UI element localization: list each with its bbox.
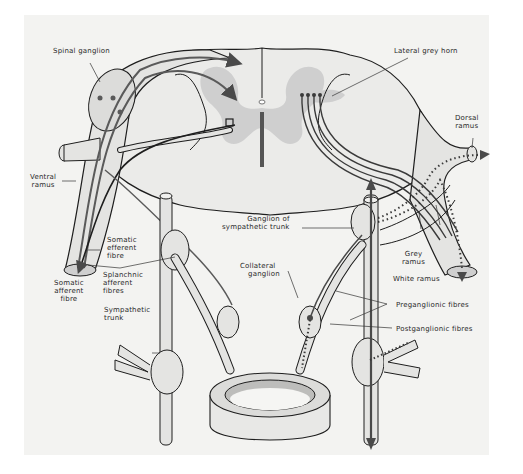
label-dorsal-ramus: Dorsal ramus (455, 114, 479, 130)
label-collateral-line2: ganglion (240, 270, 280, 278)
label-somatic-afferent-line2: afferent (54, 287, 84, 295)
label-postganglionic-fibres: Postganglionic fibres (396, 325, 473, 333)
label-ganglion-of-sympathetic-trunk: Ganglion of sympathetic trunk (222, 215, 290, 231)
label-dorsal-ramus-line1: Dorsal (455, 114, 479, 122)
label-somatic-afferent-line1: Somatic (54, 279, 84, 287)
label-lateral-grey-horn: Lateral grey horn (394, 47, 458, 55)
central-canal (259, 100, 265, 104)
label-somatic-efferent-line2: efferent (107, 244, 137, 252)
label-somatic-efferent-fibre: Somatic efferent fibre (107, 236, 137, 260)
label-grey-ramus-line1: Grey (402, 250, 425, 258)
label-somatic-efferent-line1: Somatic (107, 236, 137, 244)
label-splanchnic-line3: fibres (103, 287, 143, 295)
aorta (210, 373, 330, 440)
nervous-system-diagram (0, 0, 523, 474)
label-somatic-afferent-line3: fibre (54, 295, 84, 303)
anterior-median-fissure (260, 112, 264, 167)
label-ventral-ramus-line1: Ventral (30, 173, 56, 181)
label-spinal-ganglion: Spinal ganglion (53, 47, 110, 55)
right-sympathetic-trunk (351, 178, 420, 450)
label-grey-ramus-line2: ramus (402, 258, 425, 266)
label-preganglionic-fibres: Preganglionic fibres (396, 301, 469, 309)
label-dorsal-ramus-line2: ramus (455, 122, 479, 130)
label-sympathetic-trunk-line2: trunk (104, 314, 150, 322)
label-sympathetic-trunk-line1: Sympathetic (104, 306, 150, 314)
label-grey-ramus: Grey ramus (402, 250, 425, 266)
label-white-ramus: White ramus (393, 275, 440, 283)
label-splanchnic-line2: afferent (103, 279, 143, 287)
label-collateral-line1: Collateral (240, 262, 280, 270)
label-somatic-afferent-fibre: Somatic afferent fibre (54, 279, 84, 303)
label-splanchnic-line1: Splanchnic (103, 271, 143, 279)
label-splanchnic-afferent-fibres: Splanchnic afferent fibres (103, 271, 143, 295)
label-ventral-ramus: Ventral ramus (30, 173, 56, 189)
label-collateral-ganglion: Collateral ganglion (240, 262, 280, 278)
label-ganglion-line1: Ganglion of (222, 215, 290, 223)
collateral-ganglia (175, 235, 362, 370)
label-sympathetic-trunk: Sympathetic trunk (104, 306, 150, 322)
label-somatic-efferent-line3: fibre (107, 252, 137, 260)
label-ventral-ramus-line2: ramus (30, 181, 56, 189)
label-ganglion-line2: sympathetic trunk (222, 223, 290, 231)
